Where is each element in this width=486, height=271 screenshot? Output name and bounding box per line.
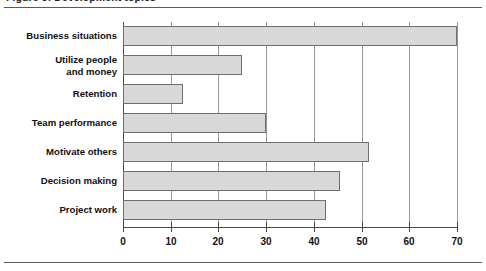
category-label: Utilize people and money (55, 54, 117, 77)
x-tick-70 (457, 222, 458, 232)
gridline-30 (266, 22, 267, 224)
bar-chart-figure: Figure 3: Development topics 01020304050… (0, 0, 486, 271)
bar (123, 26, 457, 46)
x-ticklabel-50: 50 (356, 236, 367, 247)
gridline-60 (409, 22, 410, 224)
x-tick-10 (171, 222, 172, 232)
gridline-40 (314, 22, 315, 224)
top-divider (4, 7, 482, 8)
x-tick-20 (218, 222, 219, 232)
x-ticklabel-0: 0 (120, 236, 126, 247)
x-axis-line (123, 227, 457, 228)
x-ticklabel-20: 20 (212, 236, 223, 247)
x-ticklabel-10: 10 (165, 236, 176, 247)
x-tick-60 (409, 222, 410, 232)
category-label: Retention (73, 88, 117, 100)
x-tick-0 (123, 222, 124, 232)
figure-caption: Figure 3: Development topics (6, 0, 156, 3)
bar (123, 113, 266, 133)
x-ticklabel-30: 30 (260, 236, 271, 247)
bar (123, 200, 326, 220)
bar (123, 84, 183, 104)
category-label: Business situations (26, 30, 117, 42)
x-tick-40 (314, 222, 315, 232)
category-label: Motivate others (46, 146, 117, 158)
category-label: Decision making (41, 175, 117, 187)
gridline-50 (362, 22, 363, 224)
bottom-divider (4, 262, 482, 263)
gridline-70 (457, 22, 458, 224)
x-ticklabel-40: 40 (308, 236, 319, 247)
x-ticklabel-70: 70 (451, 236, 462, 247)
category-label: Team performance (32, 117, 117, 129)
bar (123, 55, 242, 75)
bar (123, 142, 369, 162)
bar (123, 171, 340, 191)
x-tick-30 (266, 222, 267, 232)
x-ticklabel-60: 60 (403, 236, 414, 247)
category-label: Project work (59, 204, 117, 216)
x-tick-50 (362, 222, 363, 232)
